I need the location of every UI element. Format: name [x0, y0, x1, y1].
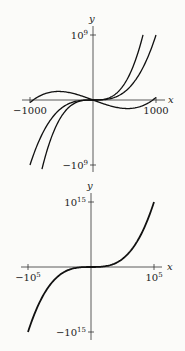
y-axis-label: y [88, 13, 95, 24]
x-tick-label: 105 [145, 271, 162, 283]
y-tick-label: −109 [62, 159, 88, 171]
series-line-steep-cubic [42, 35, 143, 169]
chart-bottom: x y −105105 1015−1015 [15, 180, 173, 340]
y-axis-label: y [86, 180, 93, 191]
chart-top: x y −10001000 109−109 [13, 13, 174, 172]
x-axis-label: x [168, 94, 174, 105]
y-tick-label: 1015 [64, 196, 86, 208]
figure: x y −10001000 109−109 x y −105105 1015−1… [0, 0, 185, 351]
x-tick-label: 1000 [143, 105, 168, 116]
y-tick-label: 109 [71, 29, 88, 41]
y-tick-label: −1015 [56, 326, 86, 338]
x-tick-label: −105 [15, 271, 41, 283]
x-axis-label: x [167, 261, 173, 272]
x-tick-label: −1000 [13, 105, 47, 116]
